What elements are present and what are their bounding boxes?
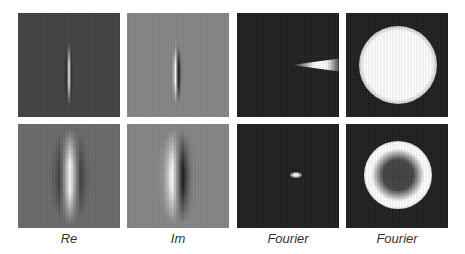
gabor-stripe: [63, 43, 75, 105]
panel-real-large-gabor: [18, 124, 120, 228]
column-label-fourier: Fourier: [346, 231, 448, 246]
spectrum-disc: [359, 26, 437, 104]
panel-imag-large-gabor: [127, 124, 229, 228]
panel-fourier-wedge: [237, 13, 339, 117]
spectrum-wedge: [292, 58, 339, 72]
spectrum-dot: [290, 172, 302, 178]
column-label-fourier: Fourier: [237, 231, 339, 246]
panel-real-small-gabor: [18, 13, 120, 117]
panel-fourier-ring: [346, 124, 448, 228]
gabor-stripe: [153, 129, 201, 225]
column-label-im: Im: [127, 231, 229, 246]
gabor-stripe: [48, 129, 92, 225]
panel-fourier-disc: [346, 13, 448, 117]
gabor-stripe: [171, 43, 183, 105]
spectrum-ring: [364, 141, 432, 209]
panel-imag-small-gabor: [127, 13, 229, 117]
column-label-re: Re: [18, 231, 120, 246]
panel-fourier-dot: [237, 124, 339, 228]
